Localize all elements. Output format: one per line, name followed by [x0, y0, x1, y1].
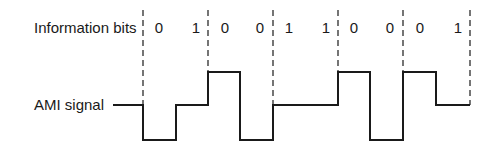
- diagram-canvas: Information bits AMI signal 0 1 0 0 1 1 …: [0, 0, 503, 154]
- ami-waveform: [113, 72, 470, 140]
- bit-value: 0: [221, 19, 229, 36]
- information-bits-label: Information bits: [34, 19, 137, 36]
- bit-value: 1: [285, 19, 293, 36]
- bit-value: 0: [386, 19, 394, 36]
- bit-values: 0 1 0 0 1 1 0 0 0 1: [155, 19, 462, 36]
- bit-value: 0: [350, 19, 358, 36]
- ami-signal-label: AMI signal: [34, 96, 104, 113]
- bit-value: 0: [155, 19, 163, 36]
- bit-value: 0: [256, 19, 264, 36]
- bit-value: 0: [416, 19, 424, 36]
- bit-value: 1: [192, 19, 200, 36]
- bit-value: 1: [454, 19, 462, 36]
- ami-diagram: Information bits AMI signal 0 1 0 0 1 1 …: [0, 0, 503, 154]
- bit-value: 1: [322, 19, 330, 36]
